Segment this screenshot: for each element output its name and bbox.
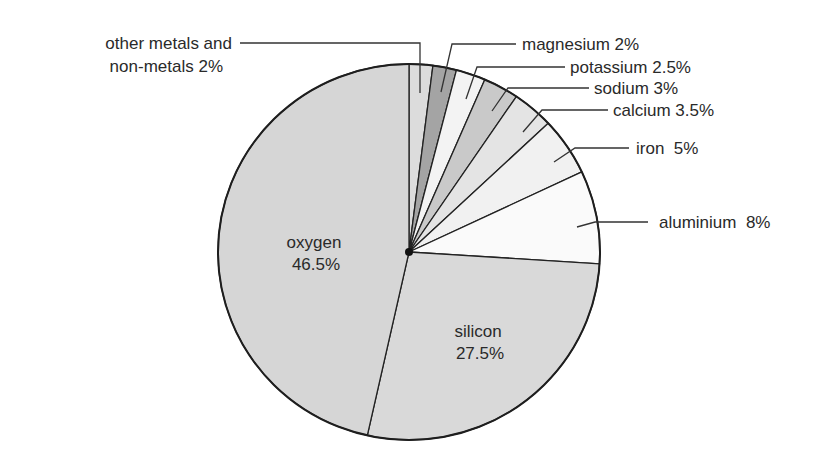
pie-center-hub [405, 248, 413, 256]
label-silicon-value: 27.5% [456, 344, 504, 363]
label-iron: iron 5% [636, 139, 698, 158]
pie-slices [218, 64, 600, 440]
label-magnesium: magnesium 2% [522, 35, 639, 54]
label-aluminium: aluminium 8% [659, 213, 771, 232]
label-other-line1: other metals and [105, 34, 232, 53]
label-potassium: potassium 2.5% [570, 58, 691, 77]
pie-chart: other metals and non-metals 2% magnesium… [0, 0, 834, 476]
label-sodium: sodium 3% [594, 79, 678, 98]
label-oxygen-value: 46.5% [292, 255, 340, 274]
label-other-line2: non-metals 2% [110, 57, 223, 76]
label-calcium: calcium 3.5% [613, 101, 714, 120]
label-oxygen-name: oxygen [287, 233, 342, 252]
label-silicon-name: silicon [454, 322, 501, 341]
